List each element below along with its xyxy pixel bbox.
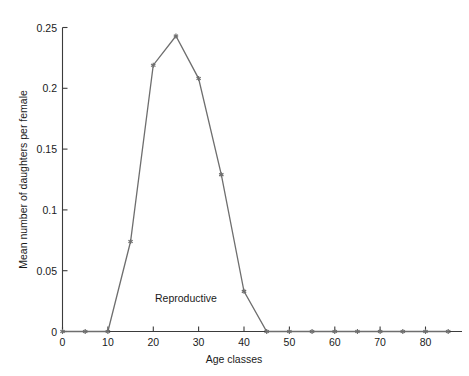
x-tick-label: 30 <box>193 336 205 348</box>
x-axis-tick-labels: 0 10 20 30 40 50 60 70 80 <box>60 336 432 348</box>
y-tick-label: 0.25 <box>37 22 58 34</box>
x-tick-label: 80 <box>420 336 432 348</box>
x-tick-label: 20 <box>147 336 159 348</box>
chart-figure: 0 0.05 0.1 0.15 0.2 0.25 0 10 20 30 40 <box>0 0 469 376</box>
y-axis-ticks <box>63 28 68 332</box>
x-axis-title: Age classes <box>206 353 263 365</box>
x-tick-label: 10 <box>102 336 114 348</box>
y-tick-label: 0.2 <box>42 82 57 94</box>
x-tick-label: 0 <box>60 336 66 348</box>
y-tick-label: 0 <box>51 326 57 338</box>
axis-spines <box>63 28 463 332</box>
y-tick-label: 0.05 <box>37 265 58 277</box>
y-tick-label: 0.15 <box>37 143 58 155</box>
reproductive-annotation: Reproductive <box>155 292 217 304</box>
y-axis-title: Mean number of daughters per female <box>17 90 29 269</box>
x-tick-label: 70 <box>374 336 386 348</box>
data-point-marker <box>219 172 223 177</box>
x-tick-label: 60 <box>329 336 341 348</box>
y-tick-label: 0.1 <box>42 204 57 216</box>
data-series-line <box>63 36 449 331</box>
data-point-marker <box>128 239 132 244</box>
y-axis-tick-labels: 0 0.05 0.1 0.15 0.2 0.25 <box>37 22 58 338</box>
x-axis-ticks <box>63 327 426 332</box>
line-chart: 0 0.05 0.1 0.15 0.2 0.25 0 10 20 30 40 <box>0 0 469 376</box>
x-tick-label: 50 <box>284 336 296 348</box>
x-tick-label: 40 <box>238 336 250 348</box>
